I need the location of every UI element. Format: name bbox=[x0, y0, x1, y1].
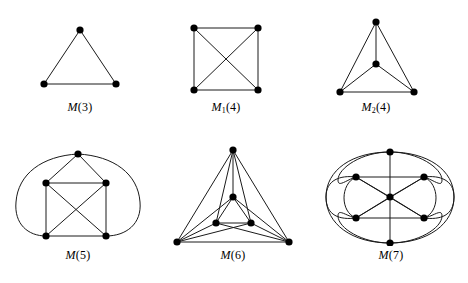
label-argument: (3) bbox=[78, 100, 93, 114]
graph-label-m6: M(6) bbox=[163, 248, 303, 263]
edge-arc bbox=[424, 177, 436, 218]
edge bbox=[390, 197, 424, 218]
vertex bbox=[190, 24, 197, 31]
edge bbox=[390, 177, 424, 197]
vertex bbox=[112, 80, 119, 87]
vertex bbox=[42, 179, 49, 186]
graph-m1-4: M1(4) bbox=[168, 12, 284, 120]
edge-arc bbox=[390, 213, 442, 243]
graph-m2-4: M2(4) bbox=[318, 12, 434, 120]
edges bbox=[44, 30, 116, 84]
label-subscript: 1 bbox=[222, 106, 226, 115]
vertex bbox=[386, 193, 393, 200]
graph-label-m7: M(7) bbox=[318, 248, 464, 263]
label-symbol: M bbox=[212, 100, 222, 114]
edge bbox=[80, 30, 116, 84]
edge-arc-wide bbox=[326, 177, 390, 243]
graph-label-m1-4: M1(4) bbox=[168, 100, 284, 115]
graph-m5-diagram bbox=[8, 140, 148, 246]
graph-m1-4-diagram bbox=[168, 12, 284, 98]
vertex bbox=[74, 150, 81, 157]
vertices bbox=[40, 26, 119, 87]
vertex bbox=[352, 173, 359, 180]
graph-m3-diagram bbox=[22, 12, 138, 98]
label-symbol: M bbox=[68, 100, 78, 114]
vertex bbox=[352, 214, 359, 221]
vertex bbox=[102, 179, 109, 186]
vertex bbox=[254, 86, 261, 93]
graph-m2-4-diagram bbox=[318, 12, 434, 98]
edge bbox=[356, 197, 390, 218]
vertex bbox=[254, 24, 261, 31]
vertex bbox=[173, 238, 180, 245]
edge bbox=[46, 154, 78, 183]
vertex bbox=[229, 146, 236, 153]
vertex bbox=[386, 239, 393, 246]
label-argument: (4) bbox=[376, 100, 391, 114]
label-argument: (6) bbox=[231, 248, 246, 262]
edge bbox=[376, 64, 414, 92]
edge-arc bbox=[390, 152, 442, 183]
label-symbol: M bbox=[221, 248, 231, 262]
vertex bbox=[420, 173, 427, 180]
edge-arc-wide bbox=[390, 177, 454, 243]
edge-arc bbox=[344, 177, 356, 218]
graph-m6: M(6) bbox=[163, 140, 303, 266]
vertex bbox=[102, 232, 109, 239]
vertex bbox=[247, 219, 254, 226]
edge-curved bbox=[16, 154, 78, 236]
vertices bbox=[336, 18, 417, 95]
vertex bbox=[410, 88, 417, 95]
edge bbox=[376, 22, 414, 92]
vertex bbox=[336, 88, 343, 95]
vertex bbox=[372, 18, 379, 25]
edge-curved bbox=[78, 154, 140, 236]
vertex bbox=[372, 60, 379, 67]
edge-arc-wide bbox=[390, 152, 454, 218]
edge bbox=[216, 150, 233, 223]
vertices bbox=[42, 150, 109, 239]
vertex bbox=[285, 238, 292, 245]
label-symbol: M bbox=[66, 248, 76, 262]
edge bbox=[44, 30, 80, 84]
graph-label-m2-4: M2(4) bbox=[318, 100, 434, 115]
label-argument: (4) bbox=[226, 100, 241, 114]
graph-m5: M(5) bbox=[8, 140, 148, 266]
label-symbol: M bbox=[379, 248, 389, 262]
graph-m7: M(7) bbox=[318, 140, 464, 266]
edges bbox=[16, 154, 140, 236]
edge bbox=[233, 197, 289, 242]
edges bbox=[340, 22, 414, 92]
graph-label-m3: M(3) bbox=[22, 100, 138, 115]
vertex bbox=[40, 80, 47, 87]
edge bbox=[340, 22, 376, 92]
graph-m3: M(3) bbox=[22, 12, 138, 120]
vertex bbox=[212, 219, 219, 226]
edges bbox=[194, 28, 258, 90]
edge-arc bbox=[338, 213, 390, 243]
edge-arc-wide bbox=[326, 152, 390, 218]
vertex bbox=[229, 193, 236, 200]
edge bbox=[233, 150, 251, 223]
label-symbol: M bbox=[362, 100, 372, 114]
label-subscript: 2 bbox=[372, 106, 376, 115]
graph-m6-diagram bbox=[163, 140, 303, 246]
vertex bbox=[76, 26, 83, 33]
graph-m7-diagram bbox=[318, 140, 464, 246]
edge bbox=[340, 64, 376, 92]
graph-label-m5: M(5) bbox=[8, 248, 148, 263]
vertex bbox=[420, 214, 427, 221]
vertex bbox=[386, 148, 393, 155]
edge-arc bbox=[338, 152, 390, 183]
label-argument: (5) bbox=[76, 248, 91, 262]
vertex bbox=[42, 232, 49, 239]
edge bbox=[356, 177, 390, 197]
figure-complete-graphs: M(3) M1(4) bbox=[0, 0, 468, 283]
vertex bbox=[190, 86, 197, 93]
label-argument: (7) bbox=[389, 248, 404, 262]
